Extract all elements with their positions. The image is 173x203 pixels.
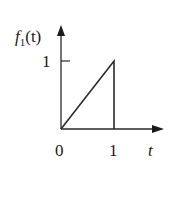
x-axis-arrow-icon [152,125,164,133]
y-tick-label-1: 1 [42,52,51,71]
signal-line [61,61,114,129]
y-axis-label: f1(t) [15,27,41,48]
signal-plot: f1(t) 1 0 1 t [0,0,173,203]
x-tick-label-0: 0 [55,141,64,160]
y-axis-arrow-icon [57,25,65,36]
x-tick-label-1: 1 [109,141,118,160]
x-axis-label: t [148,141,154,160]
